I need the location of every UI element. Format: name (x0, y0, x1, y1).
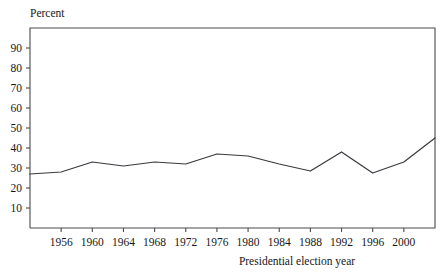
x-tick-label: 1976 (205, 236, 228, 248)
x-axis-ticks (61, 228, 404, 232)
x-tick-label: 1960 (81, 236, 104, 248)
x-tick-label: 1964 (112, 236, 135, 248)
axis-frame (30, 28, 435, 228)
x-tick-label: 1968 (143, 236, 166, 248)
y-tick-label: 30 (11, 162, 23, 174)
x-tick-label: 1972 (174, 236, 197, 248)
y-tick-label: 50 (11, 122, 23, 134)
y-tick-label: 20 (11, 182, 23, 194)
x-tick-label: 1996 (361, 236, 384, 248)
y-tick-label: 70 (11, 82, 23, 94)
y-tick-label: 60 (11, 102, 23, 114)
y-tick-label: 40 (11, 142, 23, 154)
y-tick-label: 80 (11, 62, 23, 74)
x-tick-label: 2000 (392, 236, 415, 248)
x-tick-label: 1992 (330, 236, 353, 248)
chart-figure: Percent 102030405060708090 1956196019641… (0, 0, 448, 280)
data-series-group (30, 138, 435, 174)
x-axis-tick-labels: 1956196019641968197219761980198419881992… (50, 236, 416, 248)
y-axis-title: Percent (30, 7, 65, 19)
y-tick-label: 90 (11, 42, 23, 54)
x-tick-label: 1956 (50, 236, 73, 248)
line-chart-svg: Percent 102030405060708090 1956196019641… (0, 0, 448, 280)
y-axis-tick-labels: 102030405060708090 (11, 42, 23, 214)
y-tick-label: 10 (11, 202, 23, 214)
y-axis-ticks (26, 48, 30, 208)
series-line-percent (30, 138, 435, 174)
x-axis-title: Presidential election year (239, 255, 355, 268)
x-tick-label: 1980 (237, 236, 260, 248)
x-tick-label: 1984 (268, 236, 291, 248)
x-tick-label: 1988 (299, 236, 322, 248)
plot-frame (30, 28, 435, 228)
